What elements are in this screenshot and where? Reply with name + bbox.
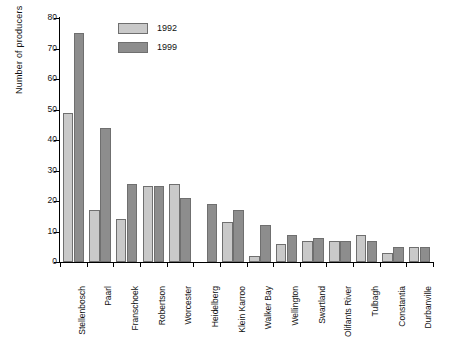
bar-group — [382, 18, 404, 262]
x-tick-mark — [220, 262, 221, 267]
x-tick-mark — [167, 262, 168, 267]
x-tick-mark — [380, 262, 381, 267]
bar — [154, 186, 165, 262]
bar — [222, 222, 233, 262]
bar — [409, 247, 420, 262]
y-tick-label: 70 — [48, 43, 57, 53]
x-tick-mark — [300, 262, 301, 267]
x-tick-mark — [247, 262, 248, 267]
y-tick-label: 40 — [48, 134, 57, 144]
bar — [393, 247, 404, 262]
bar-group — [89, 18, 111, 262]
x-tick-mark — [406, 262, 407, 267]
x-category-label: Paarl — [103, 286, 113, 306]
bar — [63, 113, 74, 262]
y-tick-label: 20 — [48, 195, 57, 205]
bar-group — [63, 18, 85, 262]
x-tick-mark — [193, 262, 194, 267]
y-axis-label: Number of producers — [14, 0, 28, 94]
bar — [100, 128, 111, 262]
bar — [89, 210, 100, 262]
bar — [340, 241, 351, 262]
x-tick-mark — [326, 262, 327, 267]
bar — [313, 238, 324, 262]
x-category-label: Klein Karroo — [237, 286, 247, 333]
x-tick-mark — [273, 262, 274, 267]
x-category-label: Constantia — [397, 286, 407, 327]
x-category-label: Wellington — [290, 286, 300, 326]
bar — [287, 235, 298, 262]
bar-group — [329, 18, 351, 262]
x-category-label: Durbanville — [423, 286, 433, 329]
x-tick-mark — [353, 262, 354, 267]
bar — [143, 186, 154, 262]
x-category-label: Heidelberg — [210, 286, 220, 327]
x-tick-mark — [113, 262, 114, 267]
y-tick-label: 60 — [48, 73, 57, 83]
bar-group — [302, 18, 324, 262]
bar — [302, 241, 313, 262]
bar — [356, 235, 367, 262]
legend-label: 1992 — [157, 23, 177, 33]
x-category-label: Olifants River — [343, 286, 353, 337]
bar — [116, 219, 127, 262]
legend-swatch — [118, 23, 148, 34]
x-category-label: Tulbagh — [370, 286, 380, 316]
bar — [127, 184, 138, 262]
legend-item: 1992 — [118, 20, 177, 36]
y-tick-label: 50 — [48, 104, 57, 114]
bar-group — [222, 18, 244, 262]
bar — [207, 204, 218, 262]
x-category-label: Swartland — [317, 286, 327, 324]
bar — [249, 256, 260, 262]
bar — [420, 247, 431, 262]
legend: 19921999 — [118, 20, 177, 58]
x-category-label: Robertson — [157, 286, 167, 325]
y-tick-label: 0 — [52, 256, 57, 266]
x-tick-mark — [60, 262, 61, 267]
legend-item: 1999 — [118, 39, 177, 55]
x-category-label: Franschoek — [130, 286, 140, 330]
bar — [329, 241, 340, 262]
y-tick-label: 30 — [48, 165, 57, 175]
x-tick-mark — [87, 262, 88, 267]
bar — [382, 253, 393, 262]
x-tick-mark — [433, 262, 434, 267]
x-category-label: Worcester — [183, 286, 193, 325]
bar — [276, 244, 287, 262]
bar-group — [409, 18, 431, 262]
bar — [74, 33, 85, 262]
bar — [367, 241, 378, 262]
x-tick-mark — [140, 262, 141, 267]
plot-area: 01020304050607080 StellenboschPaarlFrans… — [60, 18, 433, 262]
bar — [260, 225, 271, 262]
legend-label: 1999 — [157, 42, 177, 52]
y-tick-label: 10 — [48, 226, 57, 236]
x-category-label: Stellenbosch — [77, 286, 87, 335]
legend-swatch — [118, 42, 148, 53]
bar — [180, 198, 191, 262]
bar — [169, 184, 180, 262]
bar — [233, 210, 244, 262]
bar-group — [276, 18, 298, 262]
bar-group — [356, 18, 378, 262]
y-tick-label: 80 — [48, 12, 57, 22]
x-category-label: Walker Bay — [263, 286, 273, 329]
bar-group — [196, 18, 218, 262]
bar-group — [249, 18, 271, 262]
